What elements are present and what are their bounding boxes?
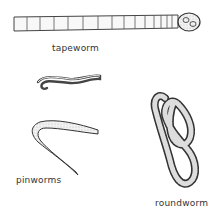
pinworms-label: pinworms [16, 175, 61, 185]
pinworm-large-drawing [32, 121, 98, 175]
roundworm-label: roundworm [155, 198, 208, 208]
pinworm-small-drawing [38, 76, 100, 89]
tapeworm-drawing [14, 13, 200, 31]
roundworm-drawing [155, 96, 195, 184]
tapeworm-label: tapeworm [52, 43, 99, 53]
